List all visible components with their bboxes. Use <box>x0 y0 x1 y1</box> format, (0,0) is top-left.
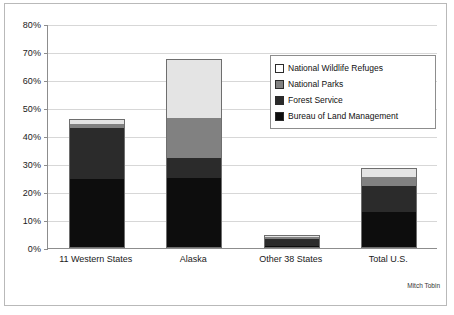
y-axis-tick-label: 50% <box>23 104 41 114</box>
chart-legend: National Wildlife Refuges National Parks… <box>270 55 436 129</box>
legend-label-blm: Bureau of Land Management <box>288 111 398 121</box>
y-axis-tick-label: 30% <box>23 160 41 170</box>
credit-text: Mitch Tobin <box>407 282 440 289</box>
y-axis-tick-label: 10% <box>23 216 41 226</box>
bar-segment-np <box>167 118 221 158</box>
bar-segment-fs <box>265 239 319 246</box>
y-axis-tick <box>44 109 48 110</box>
y-axis-tick-label: 60% <box>23 76 41 86</box>
gridline <box>48 53 437 54</box>
gridline <box>48 25 437 26</box>
bar-alaska <box>166 59 222 248</box>
y-axis-tick-label: 0% <box>28 244 41 254</box>
y-axis-tick <box>44 53 48 54</box>
y-axis-tick <box>44 193 48 194</box>
bar-segment-nwr <box>167 60 221 118</box>
legend-swatch-icon-blm <box>275 112 284 121</box>
y-axis-tick <box>44 81 48 82</box>
legend-label-fs: Forest Service <box>288 95 343 105</box>
y-axis-tick-label: 70% <box>23 48 41 58</box>
bar-total-u-s <box>361 168 417 248</box>
bar-other-38-states <box>264 235 320 248</box>
legend-label-nwr: National Wildlife Refuges <box>288 63 383 73</box>
y-axis-tick <box>44 221 48 222</box>
bar-segment-blm <box>167 178 221 247</box>
bar-11-western-states <box>69 119 125 248</box>
y-axis-tick <box>44 249 48 250</box>
legend-item-bureau-of-land-management: Bureau of Land Management <box>275 108 430 124</box>
bar-segment-blm <box>70 179 124 247</box>
legend-swatch-icon-nwr <box>275 64 284 73</box>
legend-item-national-parks: National Parks <box>275 76 430 92</box>
legend-swatch-icon-fs <box>275 96 284 105</box>
bar-segment-nwr <box>362 169 416 177</box>
bar-segment-fs <box>167 158 221 177</box>
x-axis-label: 11 Western States <box>59 254 132 264</box>
legend-swatch-icon-np <box>275 80 284 89</box>
legend-label-np: National Parks <box>288 79 343 89</box>
y-axis-tick <box>44 25 48 26</box>
bar-segment-blm <box>265 246 319 247</box>
y-axis-tick-label: 40% <box>23 132 41 142</box>
legend-item-national-wildlife-refuges: National Wildlife Refuges <box>275 60 430 76</box>
bar-segment-blm <box>362 212 416 247</box>
x-axis-label: Alaska <box>180 254 207 264</box>
x-axis-label: Other 38 States <box>259 254 322 264</box>
y-axis-tick <box>44 137 48 138</box>
y-axis-tick-label: 80% <box>23 20 41 30</box>
bar-segment-np <box>362 177 416 185</box>
y-axis-tick-label: 20% <box>23 188 41 198</box>
bar-segment-fs <box>362 186 416 212</box>
legend-item-forest-service: Forest Service <box>275 92 430 108</box>
bar-segment-fs <box>70 128 124 179</box>
chart-figure: 0%10%20%30%40%50%60%70%80% 11 Western St… <box>0 0 454 315</box>
y-axis-tick <box>44 165 48 166</box>
x-axis-label: Total U.S. <box>369 254 408 264</box>
